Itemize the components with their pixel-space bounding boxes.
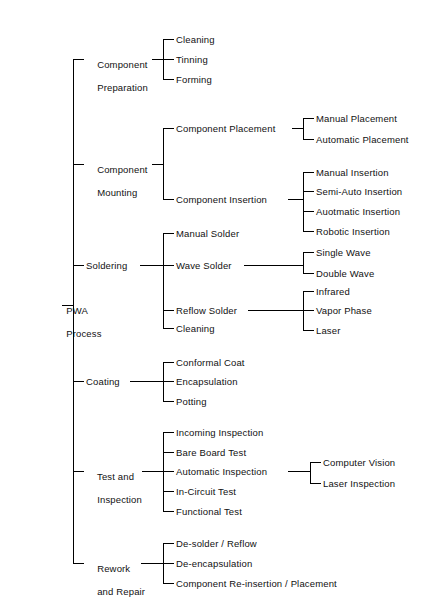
node-computer-vision: Computer Vision <box>323 457 395 469</box>
node-reflow-solder: Reflow Solder <box>176 305 237 317</box>
edge-to-laser-inspection <box>310 483 321 484</box>
edge-to-vapor-phase <box>303 310 314 311</box>
node-single-wave: Single Wave <box>316 247 371 259</box>
rework-and-repair-label-line1: Rework <box>97 563 130 574</box>
edge-to-computer-vision <box>310 462 321 463</box>
edge-to-coating <box>73 381 84 382</box>
child-bar-wave-solder <box>303 252 304 273</box>
node-laser: Laser <box>316 325 341 337</box>
node-auotmatic-insertion: Auotmatic Insertion <box>316 206 400 218</box>
node-potting: Potting <box>176 396 207 408</box>
component-preparation-label-line1: Component <box>97 59 147 70</box>
node-automatic-placement: Automatic Placement <box>316 134 409 146</box>
node-automatic-inspection: Automatic Inspection <box>176 466 267 478</box>
node-vapor-phase: Vapor Phase <box>316 305 372 317</box>
child-bar-automatic-inspection <box>310 462 311 483</box>
node-infrared: Infrared <box>316 286 350 298</box>
root-label-line2: Process <box>66 328 101 339</box>
node-de-encapsulation: De-encapsulation <box>176 558 252 570</box>
node-component-placement: Component Placement <box>176 123 276 135</box>
edge-to-in-circuit-test <box>163 491 174 492</box>
edge-automatic-inspection-to-children <box>288 471 311 472</box>
edge-to-component-mounting <box>73 164 84 165</box>
node-soldering: Soldering <box>86 260 128 272</box>
child-bar-component-mounting <box>163 128 164 199</box>
edge-to-de-solder-reflow <box>163 543 174 544</box>
edge-to-manual-insertion <box>303 172 314 173</box>
edge-reflow-solder-to-children <box>248 310 304 311</box>
node-manual-placement: Manual Placement <box>316 113 397 125</box>
node-conformal-coat: Conformal Coat <box>176 357 245 369</box>
child-bar-component-placement <box>303 118 304 139</box>
pwa-process-tree-diagram: PWA Process Component Preparation Cleani… <box>0 0 446 613</box>
node-manual-insertion: Manual Insertion <box>316 167 389 179</box>
edge-to-soldering <box>73 265 84 266</box>
node-cleaning-solder: Cleaning <box>176 323 215 335</box>
edge-to-infrared <box>303 291 314 292</box>
edge-to-potting <box>163 401 174 402</box>
edge-to-conformal-coat <box>163 362 174 363</box>
edge-to-de-encapsulation <box>163 563 174 564</box>
node-manual-solder: Manual Solder <box>176 228 239 240</box>
edge-to-single-wave <box>303 252 314 253</box>
edge-to-component-re-insertion <box>163 583 174 584</box>
edge-soldering-to-children <box>140 265 164 266</box>
node-test-and-inspection: Test and Inspection <box>86 459 142 517</box>
node-encapsulation: Encapsulation <box>176 376 238 388</box>
edge-wave-solder-to-children <box>244 265 304 266</box>
edge-to-functional-test <box>163 511 174 512</box>
rework-and-repair-label-line2: and Repair <box>97 586 145 597</box>
level1-trunk <box>73 59 74 563</box>
edge-to-laser <box>303 330 314 331</box>
edge-to-wave-solder <box>163 265 174 266</box>
node-component-preparation: Component Preparation <box>86 47 148 105</box>
node-tinning: Tinning <box>176 54 208 66</box>
node-in-circuit-test: In-Circuit Test <box>176 486 236 498</box>
edge-to-reflow-solder <box>163 310 174 311</box>
node-robotic-insertion: Robotic Insertion <box>316 226 390 238</box>
edge-to-encapsulation <box>163 381 174 382</box>
node-component-re-insertion: Component Re-insertion / Placement <box>176 578 337 590</box>
node-coating: Coating <box>86 376 120 388</box>
node-forming: Forming <box>176 74 212 86</box>
edge-to-incoming-inspection <box>163 432 174 433</box>
edge-coating-to-children <box>130 381 164 382</box>
node-component-insertion: Component Insertion <box>176 194 267 206</box>
node-rework-and-repair: Rework and Repair <box>86 551 145 609</box>
node-functional-test: Functional Test <box>176 506 242 518</box>
test-and-inspection-label-line1: Test and <box>97 471 134 482</box>
edge-to-component-placement <box>163 128 174 129</box>
edge-to-bare-board-test <box>163 452 174 453</box>
node-cleaning: Cleaning <box>176 34 215 46</box>
root-label-line1: PWA <box>66 305 88 316</box>
edge-to-cleaning <box>163 39 174 40</box>
node-de-solder-reflow: De-solder / Reflow <box>176 538 257 550</box>
test-and-inspection-label-line2: Inspection <box>97 494 142 505</box>
node-component-mounting: Component Mounting <box>86 152 148 210</box>
node-bare-board-test: Bare Board Test <box>176 447 246 459</box>
edge-to-tinning <box>163 59 174 60</box>
edge-to-cleaning-solder <box>163 328 174 329</box>
edge-component-insertion-to-children <box>288 199 304 200</box>
component-mounting-label-line1: Component <box>97 164 147 175</box>
edge-to-forming <box>163 79 174 80</box>
edge-to-robotic-insertion <box>303 231 314 232</box>
edge-to-component-preparation <box>73 59 84 60</box>
edge-to-auotmatic-insertion <box>303 211 314 212</box>
edge-to-rework-and-repair <box>73 563 84 564</box>
node-incoming-inspection: Incoming Inspection <box>176 427 263 439</box>
child-bar-soldering <box>163 233 164 328</box>
node-semi-auto-insertion: Semi-Auto Insertion <box>316 186 402 198</box>
child-bar-component-insertion <box>303 172 304 231</box>
node-wave-solder: Wave Solder <box>176 260 232 272</box>
node-double-wave: Double Wave <box>316 268 374 280</box>
edge-to-manual-placement <box>303 118 314 119</box>
edge-to-automatic-placement <box>303 139 314 140</box>
edge-rework-and-repair-to-children <box>141 563 164 564</box>
edge-test-and-inspection-to-children <box>142 471 164 472</box>
component-preparation-label-line2: Preparation <box>97 82 148 93</box>
edge-to-automatic-inspection <box>163 471 174 472</box>
edge-to-manual-solder <box>163 233 174 234</box>
component-mounting-label-line2: Mounting <box>97 187 137 198</box>
edge-to-component-insertion <box>163 199 174 200</box>
